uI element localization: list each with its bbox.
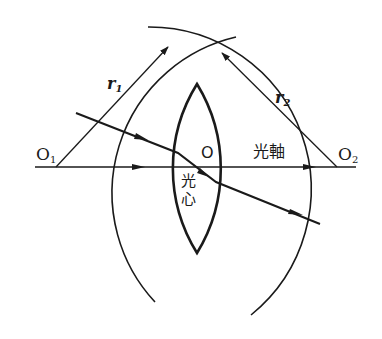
label-optical-center-line2: 心: [181, 192, 196, 207]
radius-r1-arrow: [56, 47, 168, 167]
label-optical-center-point: O: [201, 145, 214, 161]
label-o1: O1: [36, 146, 56, 165]
axis-arrow-left-icon: [132, 164, 145, 170]
ray-arrow-in-icon: [134, 133, 148, 140]
label-r2-sub: 2: [283, 97, 290, 108]
label-o2: O2: [338, 146, 358, 165]
label-o1-main: O: [36, 144, 50, 164]
convex-lens-diagram: [0, 0, 382, 339]
label-o2-main: O: [338, 144, 352, 164]
label-optical-center-line1: 光: [181, 174, 196, 189]
label-o1-sub: 1: [50, 154, 56, 165]
label-r2: r2: [275, 90, 290, 108]
label-optical-axis: 光軸: [253, 144, 285, 160]
label-r1-sub: 1: [115, 83, 122, 94]
label-r1: r1: [107, 76, 122, 94]
label-o2-sub: 2: [352, 154, 358, 165]
ray-arrow-out-icon: [288, 209, 303, 215]
